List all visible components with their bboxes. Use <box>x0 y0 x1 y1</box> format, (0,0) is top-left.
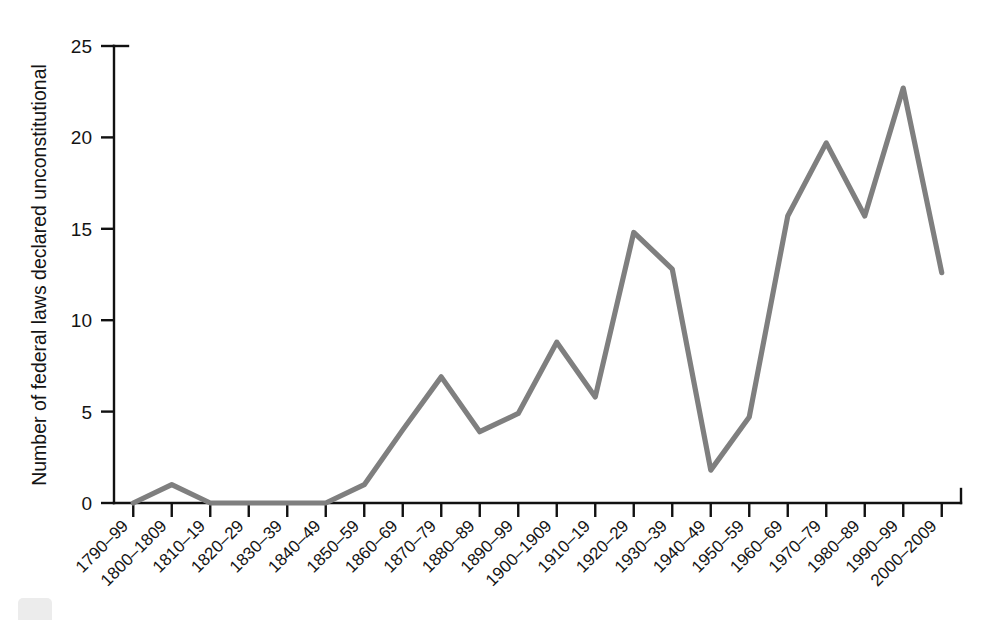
y-tick-label: 0 <box>81 493 92 514</box>
y-tick-label: 10 <box>71 310 92 331</box>
line-chart: Number of federal laws declared unconsti… <box>0 0 998 625</box>
chart-figure: Number of federal laws declared unconsti… <box>0 0 998 625</box>
page-corner-artifact <box>18 598 52 620</box>
y-tick-label: 20 <box>71 127 92 148</box>
y-tick-label: 25 <box>71 36 92 57</box>
y-axis-title-text: Number of federal laws declared unconsti… <box>28 64 50 486</box>
y-axis-title: Number of federal laws declared unconsti… <box>28 64 50 486</box>
y-tick-label: 15 <box>71 219 92 240</box>
y-tick-label: 5 <box>81 402 92 423</box>
